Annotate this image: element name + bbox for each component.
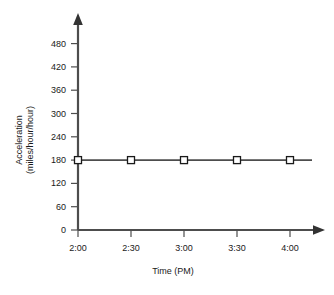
y-axis-arrow-icon	[73, 13, 83, 25]
data-point-marker	[181, 157, 188, 164]
x-tick-label-2-00: 2:00	[58, 243, 98, 253]
data-point-marker	[234, 157, 241, 164]
y-axis-title: Acceleration (miles/hour/hour)	[12, 80, 38, 200]
y-tick-label-420: 420	[36, 62, 66, 72]
y-axis-title-line1: Acceleration	[14, 106, 25, 174]
x-tick-label-2-30: 2:30	[111, 243, 151, 253]
x-axis-title: Time (PM)	[133, 266, 213, 277]
y-tick-label-480: 480	[36, 39, 66, 49]
data-point-marker	[128, 157, 135, 164]
x-axis-arrow-icon	[313, 225, 325, 235]
x-tick-label-4-00: 4:00	[270, 243, 310, 253]
y-axis	[73, 13, 83, 230]
data-series-acceleration	[75, 157, 313, 164]
y-tick-label-0: 0	[36, 225, 66, 235]
y-tick-label-120: 120	[36, 178, 66, 188]
chart-figure: 480 420 360 300 240 180 120 60 0 2:00 2:…	[0, 0, 334, 295]
x-tick-label-3-30: 3:30	[217, 243, 257, 253]
y-tick-label-60: 60	[36, 202, 66, 212]
x-axis	[78, 225, 325, 235]
y-tick-label-180: 180	[36, 155, 66, 165]
x-tick-label-3-00: 3:00	[164, 243, 204, 253]
y-tick-label-300: 300	[36, 109, 66, 119]
y-axis-title-line2: (miles/hour/hour)	[25, 106, 36, 174]
y-tick-label-240: 240	[36, 132, 66, 142]
data-point-marker	[75, 157, 82, 164]
y-tick-label-360: 360	[36, 85, 66, 95]
data-point-marker	[287, 157, 294, 164]
